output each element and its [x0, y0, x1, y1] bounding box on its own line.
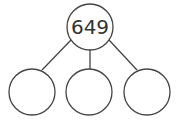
child-circle-right [124, 69, 170, 115]
number-bond-diagram: 649 [0, 0, 177, 123]
child-circle-left [9, 69, 55, 115]
child-circle-middle [66, 69, 112, 115]
connector-left [42, 40, 71, 70]
connector-right [109, 40, 137, 70]
root-label: 649 [71, 15, 109, 39]
